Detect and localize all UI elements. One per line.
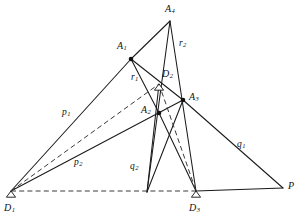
point-label-A4: A4 (165, 4, 175, 15)
point-label-D3-subscript: 3 (197, 206, 200, 213)
support-marker-D2 (154, 84, 163, 90)
point-label-D2-base: D (162, 68, 169, 79)
segment-label-r1-subscript: 1 (135, 75, 138, 82)
segment-label-q2-subscript: 2 (135, 164, 138, 171)
point-label-D1: D1 (4, 203, 15, 214)
joint-marker-A3 (181, 98, 186, 103)
support-marker-D3 (191, 191, 200, 197)
segment-label-q1-subscript: 1 (242, 142, 245, 149)
edge-A1-A4 (131, 21, 170, 59)
point-label-D3-base: D (189, 202, 196, 213)
segment-label-p2-subscript: 2 (79, 160, 82, 167)
edge-A1-A3 (131, 59, 183, 100)
point-label-A3-subscript: 3 (196, 95, 199, 102)
point-label-A3-base: A (189, 91, 195, 102)
point-label-A1-subscript: 1 (124, 44, 127, 51)
point-label-P: P (288, 181, 294, 191)
point-label-A3: A3 (189, 92, 199, 103)
joint-marker-A2 (157, 111, 162, 116)
support-marker-D1 (6, 191, 15, 197)
point-label-A2-base: A (141, 104, 147, 115)
point-label-A1: A1 (117, 41, 127, 52)
point-label-A4-base: A (165, 3, 171, 14)
segment-label-p1: p1 (62, 108, 70, 118)
segment-label-r1: r1 (131, 73, 138, 83)
point-label-D1-subscript: 1 (12, 206, 15, 213)
edge-D1-D2-dashed (11, 84, 159, 191)
point-label-D2-subscript: 2 (170, 72, 173, 79)
point-label-A2-subscript: 2 (148, 108, 151, 115)
point-label-A1-base: A (117, 40, 123, 51)
edge-D3-P (196, 188, 283, 191)
edge-A3-P-q1 (183, 100, 283, 188)
geometry-diagram: A4A1D2A3A2D1D3Pp1p2r1r2q1q2 (0, 0, 301, 223)
point-label-A4-subscript: 4 (172, 7, 175, 14)
joint-marker-A1 (129, 57, 134, 62)
segment-label-p2: p2 (74, 158, 82, 168)
segment-label-p1-subscript: 1 (67, 110, 70, 117)
point-label-D3: D3 (189, 203, 200, 214)
edge-D1-A1 (11, 59, 131, 191)
segment-label-q1: q1 (237, 140, 245, 150)
point-label-A2: A2 (141, 105, 151, 116)
point-label-D1-base: D (4, 202, 11, 213)
point-label-P-base: P (288, 180, 294, 191)
point-label-D2: D2 (162, 69, 173, 80)
segment-label-q2: q2 (130, 162, 138, 172)
segment-label-r2: r2 (179, 39, 186, 49)
segment-label-r2-subscript: 2 (183, 41, 186, 48)
